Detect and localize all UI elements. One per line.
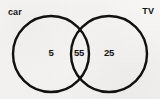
- region-value-left-only: 5: [38, 48, 64, 58]
- region-value-intersection: 55: [67, 48, 91, 58]
- region-value-right-only: 25: [95, 48, 123, 58]
- set-label-car: car: [8, 8, 38, 17]
- set-label-tv: TV: [128, 7, 154, 16]
- venn-diagram-canvas: car TV 5 55 25: [0, 0, 160, 99]
